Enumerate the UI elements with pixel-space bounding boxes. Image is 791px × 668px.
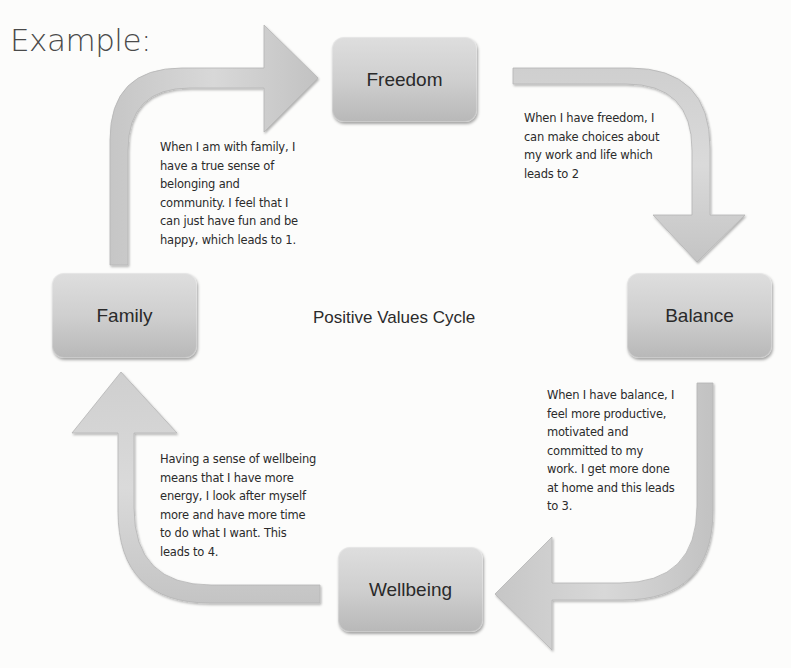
node-balance: Balance bbox=[627, 273, 772, 358]
description-family-to-freedom: When I am with family, I have a true sen… bbox=[160, 138, 298, 249]
text-line: leads to 4. bbox=[160, 543, 316, 562]
text-line: work. I get more done bbox=[547, 460, 675, 479]
text-line: Having a sense of wellbeing bbox=[160, 450, 316, 469]
node-label: Freedom bbox=[366, 69, 442, 91]
text-line: When I am with family, I bbox=[160, 138, 298, 157]
text-line: at home and this leads bbox=[547, 479, 675, 498]
text-line: motivated and bbox=[547, 423, 675, 442]
text-line: When I have freedom, I bbox=[524, 109, 659, 128]
text-line: happy, which leads to 1. bbox=[160, 231, 298, 250]
text-line: can make choices about bbox=[524, 128, 659, 147]
text-line: can just have fun and be bbox=[160, 212, 298, 231]
description-freedom-to-balance: When I have freedom, I can make choices … bbox=[524, 109, 659, 183]
description-balance-to-wellbeing: When I have balance, I feel more product… bbox=[547, 386, 675, 516]
text-line: means that I have more bbox=[160, 469, 316, 488]
diagram-title: Positive Values Cycle bbox=[313, 308, 475, 328]
text-line: to 3. bbox=[547, 497, 675, 516]
text-line: belonging and bbox=[160, 175, 298, 194]
text-line: community. I feel that I bbox=[160, 194, 298, 213]
node-label: Wellbeing bbox=[369, 579, 452, 601]
diagram-canvas: Example: bbox=[0, 0, 791, 668]
node-label: Family bbox=[97, 305, 153, 327]
node-family: Family bbox=[52, 273, 197, 358]
text-line: When I have balance, I bbox=[547, 386, 675, 405]
node-label: Balance bbox=[665, 305, 734, 327]
text-line: have a true sense of bbox=[160, 157, 298, 176]
text-line: my work and life which bbox=[524, 146, 659, 165]
text-line: energy, I look after myself bbox=[160, 487, 316, 506]
description-wellbeing-to-family: Having a sense of wellbeing means that I… bbox=[160, 450, 316, 561]
text-line: committed to my bbox=[547, 442, 675, 461]
node-freedom: Freedom bbox=[332, 37, 477, 122]
node-wellbeing: Wellbeing bbox=[338, 547, 483, 632]
text-line: to do what I want. This bbox=[160, 524, 316, 543]
text-line: leads to 2 bbox=[524, 165, 659, 184]
text-line: more and have more time bbox=[160, 506, 316, 525]
text-line: feel more productive, bbox=[547, 405, 675, 424]
